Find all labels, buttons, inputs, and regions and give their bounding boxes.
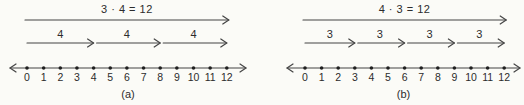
- tick-dot: [59, 66, 63, 70]
- tick-dot: [486, 66, 490, 70]
- tick-label: 11: [482, 71, 493, 83]
- tick-dot: [303, 66, 307, 70]
- panel-caption: (a): [121, 88, 134, 100]
- tick-dot: [92, 66, 96, 70]
- tick-label: 10: [188, 71, 200, 83]
- panel-b: 4 · 3 = 1233330123456789101112(b): [262, 0, 524, 105]
- tick-label: 9: [451, 71, 457, 83]
- tick-dot: [386, 66, 390, 70]
- tick-label: 5: [107, 71, 113, 83]
- jump-arrow-label: 3: [327, 28, 333, 40]
- tick-dot: [353, 66, 357, 70]
- jump-arrow-label: 3: [377, 28, 383, 40]
- tick-label: 0: [302, 71, 308, 83]
- tick-dot: [419, 66, 423, 70]
- tick-dot: [370, 66, 374, 70]
- tick-dot: [469, 66, 473, 70]
- tick-label: 1: [41, 71, 47, 83]
- jump-arrow-label: 4: [57, 28, 63, 40]
- panel-a: 3 · 4 = 124440123456789101112(a): [0, 0, 262, 105]
- multiplication-number-line-figure: 3 · 4 = 124440123456789101112(a) 4 · 3 =…: [0, 0, 524, 105]
- equation-label: 3 · 4 = 12: [101, 3, 153, 15]
- tick-label: 4: [368, 71, 374, 83]
- tick-label: 5: [385, 71, 391, 83]
- tick-dot: [108, 66, 112, 70]
- tick-label: 7: [141, 71, 147, 83]
- tick-label: 7: [418, 71, 424, 83]
- tick-dot: [336, 66, 340, 70]
- panel-b-diagram: 4 · 3 = 1233330123456789101112(b): [262, 0, 524, 105]
- tick-dot: [142, 66, 146, 70]
- panel-a-diagram: 3 · 4 = 124440123456789101112(a): [0, 0, 262, 105]
- jump-arrow-label: 4: [190, 28, 196, 40]
- tick-dot: [158, 66, 162, 70]
- tick-dot: [25, 66, 29, 70]
- tick-label: 1: [319, 71, 325, 83]
- tick-label: 4: [91, 71, 97, 83]
- tick-dot: [436, 66, 440, 70]
- equation-label: 4 · 3 = 12: [379, 3, 431, 15]
- tick-dot: [403, 66, 407, 70]
- jump-arrow-label: 3: [476, 28, 482, 40]
- tick-label: 2: [57, 71, 63, 83]
- tick-label: 6: [124, 71, 130, 83]
- tick-dot: [75, 66, 79, 70]
- tick-dot: [208, 66, 212, 70]
- tick-dot: [225, 66, 229, 70]
- tick-dot: [192, 66, 196, 70]
- tick-dot: [453, 66, 457, 70]
- tick-label: 11: [205, 71, 216, 83]
- tick-dot: [42, 66, 46, 70]
- tick-label: 9: [174, 71, 180, 83]
- tick-label: 12: [498, 71, 510, 83]
- tick-label: 8: [157, 71, 163, 83]
- tick-label: 3: [74, 71, 80, 83]
- tick-label: 2: [335, 71, 341, 83]
- tick-label: 6: [402, 71, 408, 83]
- tick-dot: [175, 66, 179, 70]
- tick-label: 8: [435, 71, 441, 83]
- jump-arrow-label: 4: [124, 28, 130, 40]
- tick-label: 10: [465, 71, 477, 83]
- tick-label: 12: [221, 71, 233, 83]
- panel-caption: (b): [397, 88, 410, 100]
- tick-dot: [320, 66, 324, 70]
- tick-dot: [502, 66, 506, 70]
- jump-arrow-label: 3: [426, 28, 432, 40]
- tick-dot: [125, 66, 129, 70]
- tick-label: 3: [352, 71, 358, 83]
- tick-label: 0: [24, 71, 30, 83]
